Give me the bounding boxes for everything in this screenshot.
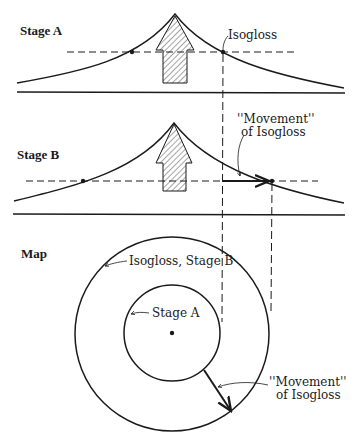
movement-arrow-map [204,370,231,411]
stage-b-left-point [81,179,85,183]
map-label: Map [21,247,47,260]
stage-b-label: Stage B [17,148,59,161]
map-stage-a-label: Stage A [152,307,199,320]
isogloss-stage-b-label: Isogloss, Stage B [129,255,233,268]
isogloss-label: Isogloss [228,29,277,42]
stage-a-baseline [17,92,345,93]
movement-label-map-line2: of Isogloss [276,389,341,402]
stage-a-panel [17,14,345,93]
stage-a-left-point [130,50,134,54]
movement-map-leader [218,383,268,387]
movement-label-leader-b [238,135,244,176]
stage-a-right-point [221,50,225,54]
stage-b-baseline [13,214,345,215]
stage-a-label: Stage A [20,24,62,37]
projection-line-a [222,54,223,322]
stage-a-leader [131,312,149,314]
projection-line-b [271,183,272,313]
stage-b-right-point [270,179,274,183]
stage-a-arrow [156,16,194,83]
center-point [170,331,174,335]
movement-label-b-line2: of Isogloss [241,126,306,139]
